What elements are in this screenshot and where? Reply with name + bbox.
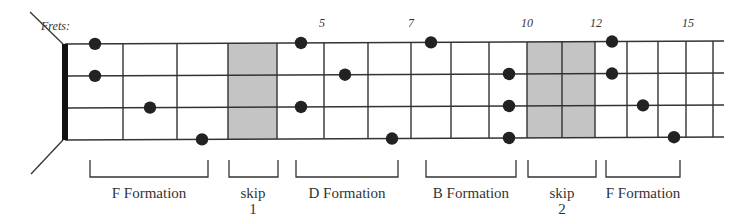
note-dot: [606, 35, 618, 47]
formation-label-text: F Formation: [606, 185, 681, 201]
note-dot: [196, 133, 208, 145]
fret-number-12: 12: [590, 16, 602, 31]
note-dot: [503, 68, 515, 80]
bracket-5: [528, 160, 596, 177]
frets-title: Frets:: [41, 19, 70, 34]
headstock-line-bottom: [31, 140, 63, 174]
nut: [62, 44, 68, 140]
formation-label-text: skip: [240, 185, 265, 201]
fret-number-15: 15: [682, 16, 694, 31]
bracket-3: [296, 160, 398, 177]
formation-label: F Formation: [606, 185, 681, 201]
formation-label-text: skip: [549, 185, 574, 201]
bracket-4: [426, 160, 516, 177]
formation-label-text: D Formation: [308, 185, 385, 201]
bracket-2: [229, 160, 278, 177]
formation-label: D Formation: [308, 185, 385, 201]
note-dot: [425, 36, 437, 48]
formation-label: B Formation: [433, 185, 509, 201]
shaded-region-skip-1: [228, 43, 277, 139]
skip-number: 1: [240, 201, 265, 217]
string-2: [65, 73, 724, 76]
formation-label: F Formation: [112, 185, 187, 201]
note-dot: [89, 70, 101, 82]
fret-number-7: 7: [408, 16, 414, 31]
note-dot: [637, 99, 649, 111]
string-3: [65, 105, 724, 108]
note-dot: [606, 67, 618, 79]
note-dot: [295, 101, 307, 113]
note-dot: [339, 69, 351, 81]
fret-number-5: 5: [319, 16, 325, 31]
fret-number-10: 10: [521, 16, 533, 31]
bracket-1: [90, 160, 208, 177]
note-dot: [668, 131, 680, 143]
formation-label: skip2: [549, 185, 574, 217]
bracket-6: [606, 160, 680, 177]
note-dot: [503, 100, 515, 112]
note-dot: [503, 132, 515, 144]
shaded-region-skip-2: [527, 42, 595, 138]
note-dot: [144, 101, 156, 113]
fretboard-diagram: Frets: 57101215 F Formationskip1D Format…: [0, 0, 749, 223]
string-1: [65, 41, 724, 44]
formation-label-text: B Formation: [433, 185, 509, 201]
note-dot: [295, 37, 307, 49]
note-dot: [89, 38, 101, 50]
skip-number: 2: [549, 201, 574, 217]
note-dot: [386, 132, 398, 144]
formation-label: skip1: [240, 185, 265, 217]
formation-label-text: F Formation: [112, 185, 187, 201]
